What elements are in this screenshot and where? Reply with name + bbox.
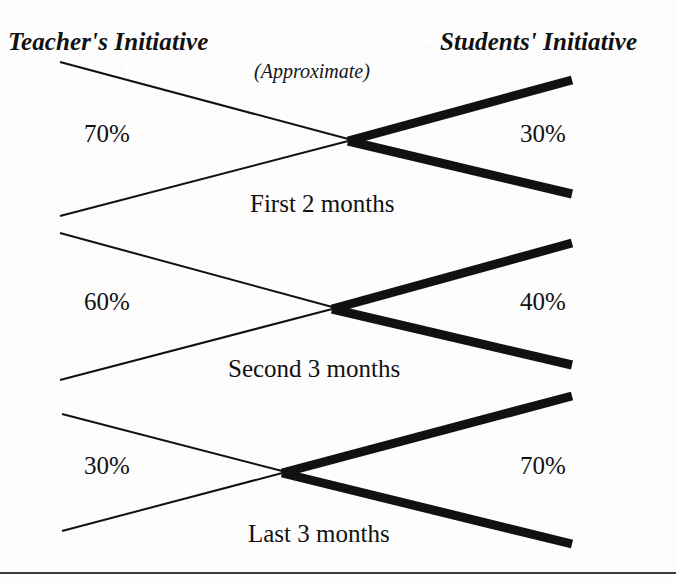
bottom-divider [0,572,676,574]
section-1-period-label: First 2 months [250,190,394,218]
section-2-period-label: Second 3 months [228,355,400,383]
diagram-canvas: Teacher's Initiative Students' Initiativ… [0,0,676,580]
section-3-period-label: Last 3 months [248,520,390,548]
section-1-students-line-lower [348,141,572,194]
students-initiative-heading: Students' Initiative [440,28,637,56]
section-3-students-percent: 70% [520,452,566,480]
section-3-teacher-percent: 30% [84,452,130,480]
section-1-teacher-percent: 70% [84,120,130,148]
section-2-teacher-percent: 60% [84,288,130,316]
teacher-initiative-heading: Teacher's Initiative [8,28,208,56]
approximate-note: (Approximate) [254,60,370,83]
section-1-students-percent: 30% [520,120,566,148]
section-2-students-percent: 40% [520,288,566,316]
